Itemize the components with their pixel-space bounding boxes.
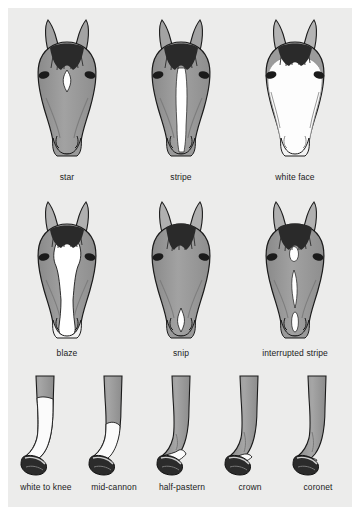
- horse-leg-coronet-illustration: [284, 372, 352, 480]
- marking-cell-half-pastern: half-pastern: [148, 372, 216, 507]
- caption-coronet: coronet: [303, 482, 332, 492]
- marking-cell-blaze: blaze: [10, 196, 124, 372]
- face-markings-row-1: star: [8, 12, 352, 196]
- marking-cell-stripe: stripe: [124, 12, 238, 196]
- marking-cell-snip: snip: [124, 196, 238, 372]
- horse-head-star-illustration: [10, 12, 124, 172]
- illustration-plate: star: [8, 8, 352, 507]
- marking-cell-white-to-knee: white to knee: [12, 372, 80, 507]
- caption-mid-cannon: mid-cannon: [91, 482, 136, 492]
- horse-head-stripe-illustration: [124, 12, 238, 172]
- horse-head-white-face-illustration: [238, 12, 352, 172]
- marking-cell-white-face: white face: [238, 12, 352, 196]
- caption-star: star: [60, 172, 75, 182]
- caption-white-face: white face: [275, 172, 314, 182]
- caption-stripe: stripe: [170, 172, 191, 182]
- marking-cell-star: star: [10, 12, 124, 196]
- horse-markings-figure: star: [0, 0, 360, 515]
- caption-white-to-knee: white to knee: [20, 482, 71, 492]
- horse-leg-half-pastern-illustration: [148, 372, 216, 480]
- marking-cell-mid-cannon: mid-cannon: [80, 372, 148, 507]
- caption-interrupted-stripe: interrupted stripe: [262, 348, 328, 358]
- horse-leg-mid-cannon-illustration: [80, 372, 148, 480]
- caption-blaze: blaze: [57, 348, 78, 358]
- face-markings-row-2: blaze: [8, 196, 352, 372]
- marking-cell-interrupted-stripe: interrupted stripe: [238, 196, 352, 372]
- horse-leg-white-to-knee-illustration: [12, 372, 80, 480]
- horse-leg-crown-illustration: [216, 372, 284, 480]
- caption-crown: crown: [238, 482, 261, 492]
- horse-head-blaze-illustration: [10, 196, 124, 348]
- leg-markings-row: white to knee mid-cannon: [8, 372, 352, 507]
- marking-cell-crown: crown: [216, 372, 284, 507]
- horse-head-snip-illustration: [124, 196, 238, 348]
- caption-half-pastern: half-pastern: [159, 482, 205, 492]
- caption-snip: snip: [173, 348, 189, 358]
- marking-cell-coronet: coronet: [284, 372, 352, 507]
- horse-head-interrupted-stripe-illustration: [238, 196, 352, 348]
